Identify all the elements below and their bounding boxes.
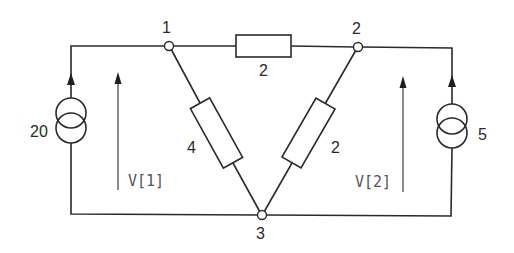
top-wire-right: [361, 47, 452, 104]
voltage-label-v2: V[2]: [355, 175, 391, 190]
resistor-1-2: [236, 35, 291, 57]
node-3-label: 3: [256, 226, 265, 242]
left-source-label: 20: [30, 124, 48, 140]
right-source-arrow-icon: [448, 75, 456, 87]
voltage-arrow-v2: [400, 76, 407, 192]
resistor-1-2-label: 2: [259, 63, 268, 79]
resistor-2-3: [264, 50, 356, 212]
resistor-1-3: [171, 49, 260, 212]
left-source-arrow-icon: [67, 73, 75, 85]
node-3-icon: [258, 211, 267, 220]
node-2-label: 2: [352, 21, 361, 37]
left-current-source-icon: [56, 98, 86, 143]
node-1-label: 1: [162, 20, 171, 36]
node-1-icon: [165, 42, 174, 51]
right-source-label: 5: [478, 127, 487, 143]
node-2-icon: [354, 43, 363, 52]
circuit-diagram: [0, 0, 514, 253]
right-current-source-icon: [437, 104, 467, 148]
voltage-arrow-v1: [115, 72, 122, 190]
voltage-label-v1: V[1]: [128, 174, 164, 189]
resistor-2-3-label: 2: [331, 140, 340, 156]
resistor-1-3-label: 4: [187, 140, 196, 156]
